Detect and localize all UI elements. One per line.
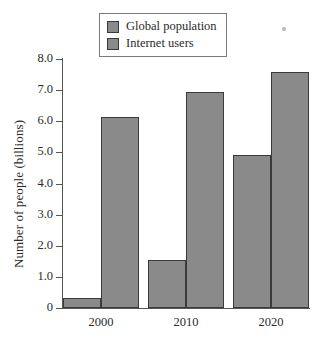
image-speck-artifact	[282, 27, 286, 31]
legend-item-internet-users: Internet users	[107, 35, 217, 52]
y-tick-label-1: 1.0	[37, 269, 53, 284]
y-tick-label-4: 4.0	[37, 176, 53, 191]
y-tick-3: 3.0	[56, 215, 62, 216]
y-tick-label-0: 0	[47, 300, 53, 315]
y-tick-7: 7.0	[56, 90, 62, 91]
y-axis-title: Number of people (billions)	[11, 89, 27, 299]
legend-swatch-global-population	[107, 21, 119, 33]
legend-label-internet-users: Internet users	[126, 36, 194, 51]
y-axis-line	[62, 58, 63, 309]
y-tick-label-8: 8.0	[37, 51, 53, 66]
y-tick-5: 5.0	[56, 152, 62, 153]
plot-area: 0 1.0 2.0 3.0 4.0 5.0 6.0 7.0 8.0	[62, 58, 310, 309]
y-tick-label-5: 5.0	[37, 144, 53, 159]
y-tick-8: 8.0	[56, 59, 62, 60]
y-tick-0: 0	[56, 308, 62, 309]
y-tick-2: 2.0	[56, 246, 62, 247]
bar-global-population-2000	[63, 298, 101, 308]
legend-label-global-population: Global population	[126, 19, 217, 34]
x-tick-label-2010: 2010	[148, 315, 224, 330]
bar-internet-users-2010	[186, 92, 224, 308]
x-tick-label-2020: 2020	[233, 315, 309, 330]
y-tick-label-6: 6.0	[37, 113, 53, 128]
y-tick-4: 4.0	[56, 184, 62, 185]
y-tick-6: 6.0	[56, 121, 62, 122]
y-tick-label-7: 7.0	[37, 82, 53, 97]
y-tick-label-2: 2.0	[37, 238, 53, 253]
y-tick-1: 1.0	[56, 277, 62, 278]
legend-item-global-population: Global population	[107, 18, 217, 35]
legend-swatch-internet-users	[107, 38, 119, 50]
bar-global-population-2020	[233, 155, 271, 308]
x-tick-label-2000: 2000	[63, 315, 139, 330]
y-tick-label-3: 3.0	[37, 207, 53, 222]
bar-chart-figure: Number of people (billions) 0 1.0 2.0 3.…	[0, 0, 313, 339]
bar-internet-users-2000	[101, 117, 139, 308]
chart-legend: Global population Internet users	[99, 13, 227, 57]
bar-internet-users-2020	[271, 72, 309, 308]
bar-global-population-2010	[148, 260, 186, 308]
x-axis-line	[62, 308, 310, 309]
